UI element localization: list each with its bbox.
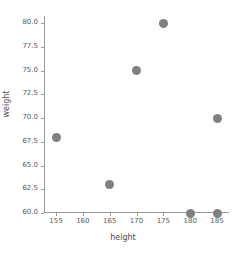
y-tick-label: 60.0 xyxy=(22,209,38,216)
x-tick-mark xyxy=(110,213,111,216)
y-tick-label: 75.0 xyxy=(22,67,38,74)
y-tick-label: 62.5 xyxy=(22,185,38,192)
x-tick-label: 180 xyxy=(175,218,205,225)
x-tick-label: 155 xyxy=(41,218,71,225)
y-axis-label: weight xyxy=(3,79,11,129)
y-tick-label: 70.0 xyxy=(22,114,38,121)
x-tick-mark xyxy=(83,213,84,216)
x-tick-mark xyxy=(56,213,57,216)
x-tick-label: 170 xyxy=(122,218,152,225)
data-point xyxy=(105,180,114,189)
x-axis-label: height xyxy=(0,234,246,242)
x-tick-label: 165 xyxy=(95,218,125,225)
data-point xyxy=(186,209,195,218)
data-point xyxy=(213,209,222,218)
x-tick-label: 160 xyxy=(68,218,98,225)
x-tick-label: 185 xyxy=(202,218,232,225)
y-tick-mark xyxy=(41,213,44,214)
y-tick-label: 77.5 xyxy=(22,43,38,50)
x-tick-label: 175 xyxy=(148,218,178,225)
data-point xyxy=(213,114,222,123)
y-tick-label: 72.5 xyxy=(22,90,38,97)
scatter-plot-figure: 60.062.565.067.570.072.575.077.580.0 155… xyxy=(0,0,246,254)
y-tick-label: 65.0 xyxy=(22,162,38,169)
y-tick-label: 80.0 xyxy=(22,19,38,26)
y-tick-label: 67.5 xyxy=(22,138,38,145)
data-point xyxy=(159,19,168,28)
data-point xyxy=(132,66,141,75)
plot-area xyxy=(44,16,229,213)
x-tick-mark xyxy=(163,213,164,216)
x-tick-mark xyxy=(137,213,138,216)
data-point xyxy=(52,133,61,142)
